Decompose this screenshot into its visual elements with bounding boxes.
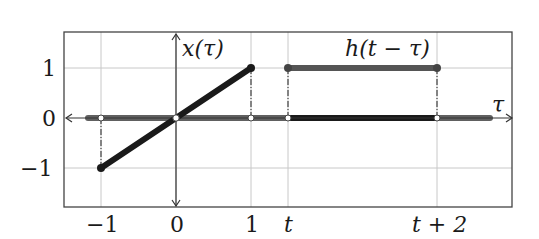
x-tick-0: 0 — [170, 212, 184, 237]
x-ramp-end-dot — [247, 64, 255, 72]
h-pulse-end-dot — [433, 64, 441, 72]
series-label-h: h(t − τ) — [345, 36, 430, 61]
y-tick-m1: −1 — [20, 156, 52, 181]
x-tick-t: t — [284, 212, 293, 237]
x-ramp-start-dot — [97, 164, 105, 172]
h-pulse-start-dot — [284, 64, 292, 72]
chart-canvas: x(τ) h(t − τ) τ 1 0 −1 −1 0 1 t t + 2 — [0, 0, 539, 239]
x-axis-label: τ — [492, 92, 505, 117]
x-tick-t2: t + 2 — [412, 212, 467, 237]
x-tick-m1: −1 — [86, 212, 118, 237]
x-tick-1: 1 — [245, 212, 259, 237]
series-label-x: x(τ) — [182, 36, 224, 61]
y-tick-0: 0 — [42, 106, 56, 131]
y-tick-1: 1 — [42, 56, 56, 81]
